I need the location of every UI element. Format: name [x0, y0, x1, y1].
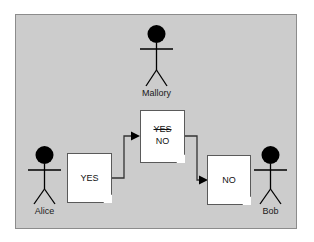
- actor-label-alice: Alice: [14, 206, 75, 216]
- actor-label-mallory: Mallory: [126, 88, 187, 98]
- document-tampered-line-no: NO: [141, 136, 184, 147]
- document-bob-message: NO: [207, 155, 251, 205]
- page-fold-icon: [103, 194, 112, 203]
- page-fold-icon: [176, 154, 185, 163]
- actor-label-bob: Bob: [240, 206, 301, 216]
- document-alice-line-yes: YES: [68, 173, 111, 184]
- page-fold-icon: [242, 196, 251, 205]
- document-alice-message: YES: [67, 153, 112, 203]
- document-tampered-message: YES NO: [140, 110, 185, 163]
- document-bob-line-no: NO: [208, 175, 250, 186]
- document-tampered-line-yes-struck: YES: [141, 124, 184, 135]
- diagram-canvas: Mallory Alice Bob YES YES NO NO: [0, 0, 314, 242]
